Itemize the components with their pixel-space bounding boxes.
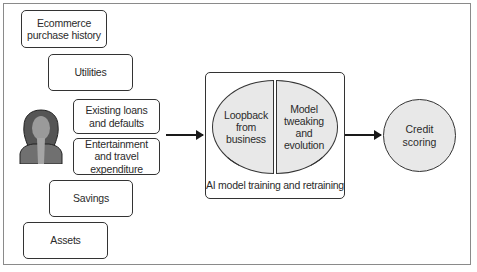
arrow-model-to-credit-scoring [345, 134, 381, 136]
ai-model-training-box: Loopback from business Model tweaking an… [205, 72, 345, 199]
loopback-label: Loopback from business [219, 109, 273, 145]
input-label: Savings [73, 192, 109, 204]
input-ecommerce-purchase-history: Ecommerce purchase history [21, 10, 107, 48]
input-label: Entertainment and travel expenditure [77, 138, 156, 174]
arrow-inputs-to-model [166, 134, 203, 136]
input-label: Ecommerce purchase history [25, 17, 103, 41]
input-savings: Savings [49, 180, 133, 217]
model-tweaking-label: Model tweaking and evolution [277, 103, 331, 151]
input-label: Utilities [74, 66, 106, 78]
person-icon [18, 108, 64, 164]
input-utilities: Utilities [48, 54, 133, 91]
input-assets: Assets [23, 222, 108, 259]
model-tweaking-half: Model tweaking and evolution [276, 80, 338, 174]
credit-scoring-label: Credit scoring [398, 123, 442, 147]
credit-scoring-circle: Credit scoring [383, 99, 456, 172]
input-existing-loans-and-defaults: Existing loans and defaults [73, 99, 160, 134]
loopback-from-business-half: Loopback from business [212, 80, 274, 174]
input-entertainment-and-travel-expenditure: Entertainment and travel expenditure [73, 138, 160, 175]
input-label: Existing loans and defaults [77, 104, 156, 128]
input-label: Assets [50, 234, 80, 246]
ai-box-label: AI model training and retraining [206, 179, 344, 191]
